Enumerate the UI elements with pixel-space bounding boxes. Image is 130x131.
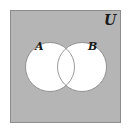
set-b-label: B [87,40,97,53]
venn-diagram: U A B [0,0,130,131]
set-a-label: A [34,40,44,53]
universe-label: U [104,12,117,28]
